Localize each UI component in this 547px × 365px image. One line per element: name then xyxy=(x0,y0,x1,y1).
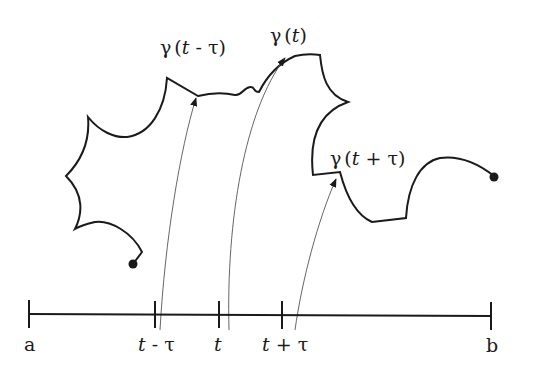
arrow-t-minus-tau xyxy=(160,98,196,330)
axis-label-t: t xyxy=(214,333,222,355)
axis-label-t-minus-tau: t - τ xyxy=(138,333,175,355)
start-point-dot xyxy=(129,260,138,269)
label-gamma-t: γ(t) xyxy=(270,24,307,46)
axis-line xyxy=(29,314,491,316)
time-axis xyxy=(29,300,491,330)
mapping-arrows xyxy=(160,58,336,330)
end-point-dot xyxy=(490,173,499,182)
label-gamma-t-minus-tau: γ(t - τ) xyxy=(160,36,226,58)
axis-label-b: b xyxy=(486,334,498,356)
path-mapping-diagram: γ(t - τ) γ(t) γ(t + τ) a t - τ t t + τ b xyxy=(0,0,547,365)
curve-gamma xyxy=(66,54,499,268)
arrow-t-plus-tau xyxy=(295,179,336,330)
axis-label-a: a xyxy=(24,333,35,355)
label-gamma-t-plus-tau: γ(t + τ) xyxy=(330,147,405,169)
axis-label-t-plus-tau: t + τ xyxy=(262,333,308,355)
arrow-t xyxy=(229,58,285,330)
